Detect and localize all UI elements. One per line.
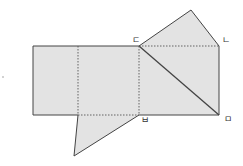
vertex-label-b: ㅂ [141,115,149,125]
vertex-label-d: ㄷ [132,35,140,45]
net-diagram: ㄷ ㄴ ㅂ ㅁ [0,0,243,166]
vertex-label-m: ㅁ [224,114,232,124]
main-rectangle-fill [33,46,219,115]
top-triangle-fill [139,10,219,46]
vertex-label-n: ㄴ [222,35,230,45]
stray-dot [2,76,4,78]
